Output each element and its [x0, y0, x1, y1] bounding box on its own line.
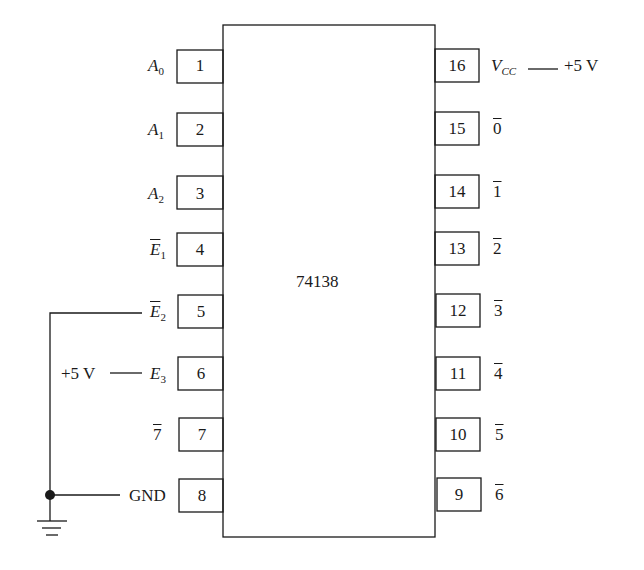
signal-a1: A1: [148, 120, 164, 145]
signal-2-bar: 2: [493, 239, 502, 259]
signal-e1-bar: E1: [150, 240, 166, 265]
pin-number-15: 15: [434, 119, 480, 139]
pin-number-16: 16: [434, 56, 480, 76]
pin-number-9: 9: [436, 485, 482, 505]
signal-4-bar: 4: [494, 364, 503, 384]
pin-number-13: 13: [434, 239, 480, 259]
signal-0-bar: 0: [493, 119, 502, 139]
pin-number-14: 14: [434, 182, 480, 202]
signal-3-bar: 3: [494, 301, 503, 321]
pin-number-1: 1: [177, 56, 223, 76]
signal-1-bar: 1: [493, 182, 502, 202]
pin-number-11: 11: [435, 364, 481, 384]
e3-supply-label: +5 V: [61, 364, 95, 384]
chip-part-number: 74138: [296, 272, 339, 292]
signal-5-bar: 5: [495, 425, 504, 445]
pin-number-5: 5: [178, 302, 224, 322]
signal-e2-bar: E2: [150, 302, 166, 327]
junction-dot: [45, 490, 55, 500]
pin-number-6: 6: [178, 364, 224, 384]
pin-number-4: 4: [177, 240, 223, 260]
signal-gnd: GND: [129, 486, 166, 506]
pin-number-2: 2: [177, 120, 223, 140]
signal-e3: E3: [150, 364, 166, 389]
pin-number-3: 3: [177, 184, 223, 204]
signal-6-bar: 6: [495, 485, 504, 505]
ground-symbol: [37, 518, 67, 538]
signal-7-bar: 7: [153, 425, 162, 445]
pin-number-10: 10: [435, 425, 481, 445]
pin-number-12: 12: [435, 301, 481, 321]
signal-a0: A0: [148, 56, 164, 81]
pin-number-7: 7: [179, 425, 225, 445]
signal-vcc: VCC: [491, 56, 516, 81]
signal-a2: A2: [148, 184, 164, 209]
pin-number-8: 8: [179, 486, 225, 506]
vcc-supply-label: +5 V: [564, 56, 598, 76]
